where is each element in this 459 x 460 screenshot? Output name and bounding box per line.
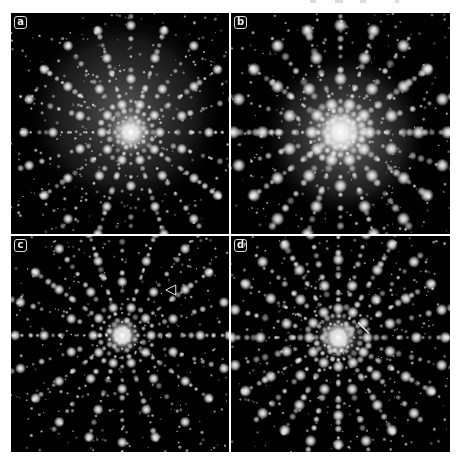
panel-a: a	[11, 13, 229, 234]
panel-label-d: d	[234, 239, 247, 252]
panel-d: d	[231, 236, 450, 452]
panel-label-b: b	[234, 16, 247, 29]
panel-c: c	[11, 236, 229, 452]
panel-label-a: a	[14, 16, 27, 29]
diffraction-pattern-a	[11, 13, 229, 234]
diffraction-pattern-b	[231, 13, 450, 234]
diffraction-figure: a b c d	[11, 13, 451, 453]
cropped-caption-fragment	[300, 0, 430, 5]
panel-label-c: c	[14, 239, 27, 252]
panel-b: b	[231, 13, 450, 234]
diffraction-pattern-c	[11, 236, 229, 452]
diffraction-pattern-d	[231, 236, 450, 452]
